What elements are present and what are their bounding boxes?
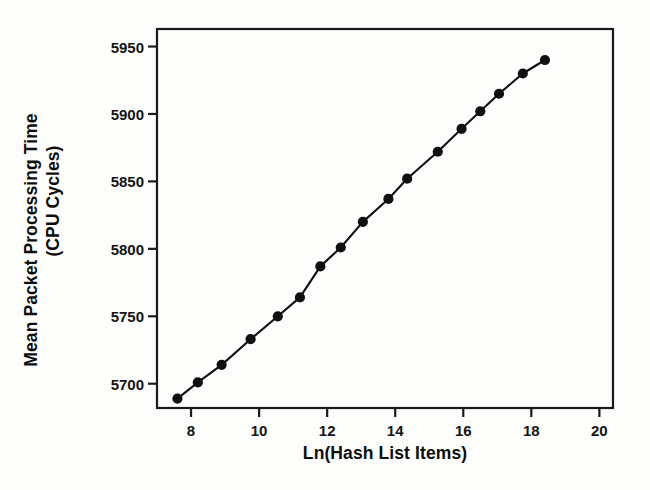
data-point-marker [383, 194, 393, 204]
y-tick-label: 5800 [78, 240, 144, 257]
data-point-marker [456, 124, 466, 134]
data-point-marker [193, 377, 203, 387]
axis-ticks [148, 47, 599, 417]
y-tick-label: 5850 [78, 173, 144, 190]
y-tick-label: 5950 [78, 38, 144, 55]
x-axis-label: Ln(Hash List Items) [157, 443, 613, 464]
data-point-marker [245, 334, 255, 344]
data-point-marker [295, 292, 305, 302]
data-point-marker [358, 217, 368, 227]
data-point-marker [273, 311, 283, 321]
x-tick-label: 18 [523, 422, 540, 439]
series-line [177, 60, 545, 399]
y-tick-label: 5750 [78, 308, 144, 325]
x-tick-label: 8 [187, 422, 195, 439]
y-tick-label: 5700 [78, 375, 144, 392]
x-tick-label: 12 [319, 422, 336, 439]
data-point-marker [518, 68, 528, 78]
data-point-marker [494, 89, 504, 99]
x-tick-label: 14 [387, 422, 404, 439]
data-line [177, 60, 545, 399]
data-point-marker [315, 261, 325, 271]
x-tick-label: 16 [455, 422, 472, 439]
data-points [172, 55, 550, 404]
data-point-marker [172, 393, 182, 403]
y-tick-label: 5900 [78, 105, 144, 122]
data-point-marker [475, 106, 485, 116]
chart-figure: Mean Packet Processing Time (CPU Cycles)… [0, 0, 650, 490]
data-point-marker [336, 242, 346, 252]
data-point-marker [433, 147, 443, 157]
data-point-marker [402, 174, 412, 184]
axes-frame [157, 29, 613, 408]
data-point-marker [217, 360, 227, 370]
x-tick-label: 10 [251, 422, 268, 439]
data-point-marker [540, 55, 550, 65]
x-tick-label: 20 [591, 422, 608, 439]
